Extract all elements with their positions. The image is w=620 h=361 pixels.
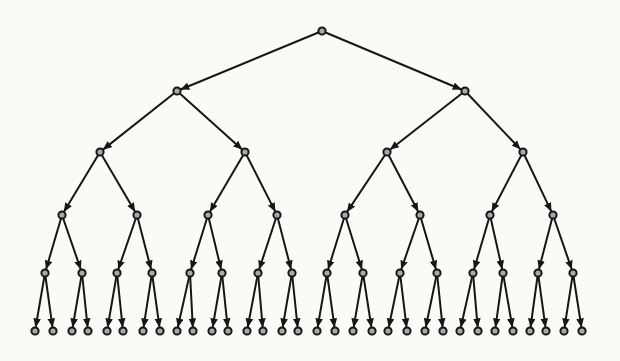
tree-edge <box>191 215 208 269</box>
tree-node <box>133 211 140 218</box>
tree-edge <box>152 273 159 326</box>
tree-node <box>499 269 506 276</box>
tree-leaf-node <box>439 327 446 334</box>
tree-edge <box>137 215 151 269</box>
tree-edge <box>465 91 520 149</box>
tree-leaf-node <box>173 327 180 334</box>
tree-edge <box>64 152 100 211</box>
tree-leaf-node <box>456 327 463 334</box>
tree-node <box>519 148 526 155</box>
tree-node <box>186 269 193 276</box>
tree-node <box>461 87 468 94</box>
tree-node <box>323 269 330 276</box>
tree-node <box>241 148 248 155</box>
tree-node <box>433 269 440 276</box>
tree-edge <box>208 215 221 269</box>
tree-edge <box>345 215 362 269</box>
tree-edge <box>258 273 263 326</box>
tree-edges <box>36 31 582 327</box>
tree-edge <box>213 273 222 326</box>
tree-edge <box>496 273 503 326</box>
tree-edge <box>178 273 190 327</box>
tree-edge <box>363 273 371 326</box>
tree-edge <box>531 273 538 326</box>
binary-tree-diagram <box>0 0 620 361</box>
tree-leaf-node <box>313 327 320 334</box>
tree-edge <box>437 273 443 326</box>
tree-leaf-node <box>49 327 56 334</box>
tree-edge <box>348 152 387 211</box>
tree-edge <box>387 152 418 211</box>
tree-edge <box>222 273 228 326</box>
tree-leaf-node <box>139 327 146 334</box>
tree-edge <box>553 215 572 269</box>
tree-node <box>288 269 295 276</box>
tree-leaf-node <box>84 327 91 334</box>
tree-edge <box>118 215 137 269</box>
tree-node <box>486 211 493 218</box>
tree-node <box>383 148 390 155</box>
tree-edge <box>420 215 436 269</box>
tree-node <box>469 269 476 276</box>
tree-leaf-node <box>119 327 126 334</box>
tree-edge <box>248 273 258 326</box>
scanned-figure <box>0 0 620 361</box>
tree-node <box>549 211 556 218</box>
tree-edge <box>492 152 523 211</box>
tree-node <box>396 269 403 276</box>
tree-leaf-node <box>509 327 516 334</box>
tree-edge <box>190 273 193 326</box>
tree-edge <box>144 273 152 326</box>
tree-edge <box>327 273 334 326</box>
tree-node <box>204 211 211 218</box>
tree-leaf-node <box>421 327 428 334</box>
tree-edge <box>46 215 62 269</box>
tree-edge <box>565 273 573 326</box>
tree-node <box>58 211 65 218</box>
tree-edge <box>62 215 81 269</box>
tree-edge <box>426 273 437 326</box>
tree-edge <box>277 215 291 269</box>
tree-node <box>273 211 280 218</box>
tree-leaf-node <box>189 327 196 334</box>
tree-edge <box>177 91 242 149</box>
tree-node <box>534 269 541 276</box>
tree-edge <box>354 273 363 326</box>
tree-leaf-node <box>474 327 481 334</box>
tree-edge <box>400 273 406 326</box>
tree-edge <box>322 31 461 89</box>
tree-leaf-node <box>294 327 301 334</box>
tree-leaf-node <box>224 327 231 334</box>
tree-leaf-node <box>156 327 163 334</box>
tree-leaf-node <box>384 327 391 334</box>
tree-edge <box>389 273 400 326</box>
tree-edge <box>503 273 512 326</box>
tree-edge <box>45 273 52 326</box>
tree-leaf-node <box>542 327 549 334</box>
tree-edge <box>539 215 553 269</box>
tree-node <box>341 211 348 218</box>
tree-leaf-node <box>103 327 110 334</box>
tree-leaf-node <box>403 327 410 334</box>
tree-edge <box>104 91 177 149</box>
tree-node <box>416 211 423 218</box>
tree-node <box>148 269 155 276</box>
tree-leaf-node <box>368 327 375 334</box>
tree-edge <box>473 273 478 326</box>
tree-node <box>218 269 225 276</box>
tree-node <box>173 87 180 94</box>
tree-node <box>96 148 103 155</box>
tree-edge <box>100 152 135 211</box>
tree-edge <box>210 152 245 211</box>
tree-edge <box>318 273 327 326</box>
tree-root-node <box>318 27 325 34</box>
tree-node <box>78 269 85 276</box>
tree-leaf-node <box>31 327 38 334</box>
tree-edge <box>328 215 345 269</box>
tree-edge <box>245 152 275 211</box>
tree-node <box>359 269 366 276</box>
tree-edge <box>36 273 45 326</box>
tree-edge <box>108 273 117 326</box>
tree-node <box>569 269 576 276</box>
tree-leaf-node <box>560 327 567 334</box>
